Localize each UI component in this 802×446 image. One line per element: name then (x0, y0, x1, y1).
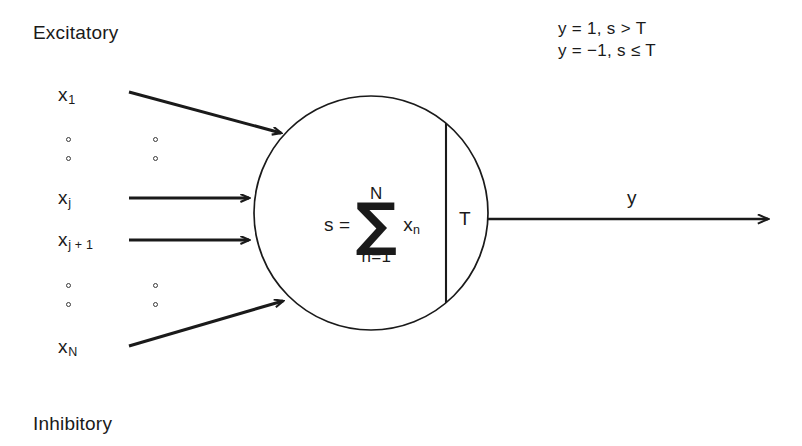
input-arrow-xN (129, 301, 283, 346)
activation-equation-positive: y = 1, s > T (558, 18, 656, 40)
summation-term-base: x (403, 214, 413, 235)
threshold-label: T (459, 209, 471, 228)
output-label: y (627, 188, 637, 207)
sigma-glyph: ∑ (355, 201, 397, 249)
sigma-stack: N ∑ n=1 (355, 185, 397, 266)
summation-formula: s = N ∑ n=1 xn (302, 172, 442, 278)
input-arrow-x1 (129, 92, 281, 133)
summation-lhs: s = (324, 214, 350, 236)
sigma-lower-limit: n=1 (362, 248, 391, 265)
activation-equation-negative: y = −1, s ≤ T (558, 40, 656, 62)
neuron-diagram-canvas: Excitatory Inhibitory x1 xj xj + 1 xN (0, 0, 802, 446)
activation-equations: y = 1, s > T y = −1, s ≤ T (558, 18, 656, 63)
summation-term-subscript: n (413, 223, 420, 237)
summation-term: xn (403, 214, 420, 236)
